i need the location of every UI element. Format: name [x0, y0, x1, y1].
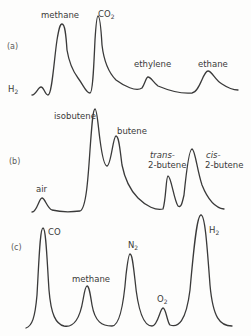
- panel-label-b: (b): [9, 157, 20, 166]
- peak-label-isobutene: isobutene: [54, 111, 96, 121]
- peak-label-o2: O2: [157, 294, 168, 305]
- peak-label-ethylene: ethylene: [134, 59, 171, 69]
- chromatogram-b: (b) air isobutene butene trans- 2-butene…: [9, 109, 243, 212]
- peak-label-n2: N2: [128, 240, 138, 251]
- peak-label-butene: butene: [117, 126, 147, 136]
- panel-label-c: (c): [11, 243, 22, 252]
- chromatogram-a: (a) H2 methane CO2 ethylene ethane: [7, 9, 238, 95]
- peak-label-ethane: ethane: [198, 59, 228, 69]
- panel-label-a: (a): [7, 42, 18, 51]
- peak-label-co2: CO2: [98, 9, 115, 20]
- peak-label-methane-c: methane: [72, 274, 110, 284]
- chromatogram-c: (c) CO methane N2 O2 H2: [11, 215, 232, 328]
- trace-a: [32, 16, 238, 95]
- peak-label-trans-prefix: trans-: [150, 150, 175, 160]
- chromatogram-figure: (a) H2 methane CO2 ethylene ethane (b) a…: [0, 0, 251, 336]
- peak-label-cis-prefix: cis-: [206, 150, 221, 160]
- peak-label-air: air: [36, 184, 48, 194]
- peak-label-h2: H2: [8, 84, 18, 95]
- peak-label-cis-2-butene: 2-butene: [205, 160, 243, 170]
- chromatogram-svg: (a) H2 methane CO2 ethylene ethane (b) a…: [0, 0, 251, 336]
- peak-label-trans-2-butene: 2-butene: [148, 160, 186, 170]
- peak-label-co: CO: [48, 227, 61, 237]
- trace-b: [32, 109, 224, 212]
- peak-label-h2-c: H2: [209, 225, 219, 236]
- peak-label-methane: methane: [41, 10, 79, 20]
